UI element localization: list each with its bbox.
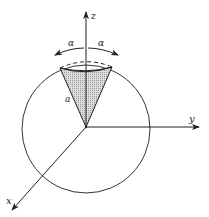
z-axis-label: z: [90, 11, 96, 21]
angle-arc: [55, 48, 84, 55]
y-axis-label: y: [188, 113, 195, 124]
alpha-left-label: α: [68, 38, 74, 48]
sphere-cone-diagram: z y x α α a: [0, 0, 209, 217]
cone-side-label: a: [65, 94, 70, 104]
alpha-right-label: α: [98, 38, 104, 48]
origin-point: [85, 126, 87, 128]
angle-arc-right: [88, 48, 118, 55]
x-axis-label: x: [6, 195, 12, 206]
